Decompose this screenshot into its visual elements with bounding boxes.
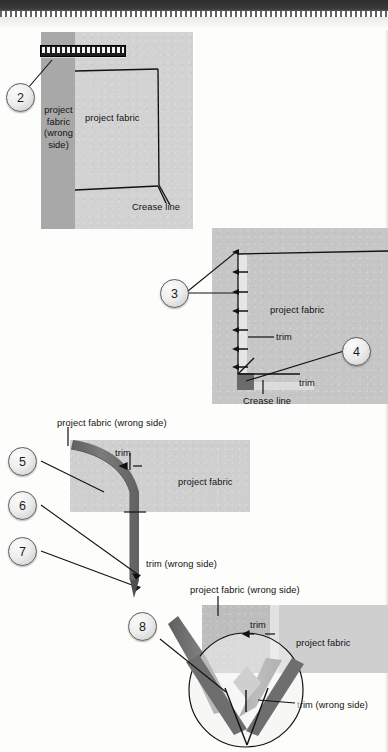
callout-6-leader (41, 505, 140, 576)
panel-8-stitch-lines (225, 688, 268, 745)
panel-3-trim-strip (238, 254, 247, 374)
panel-2-crease-label: Crease line (132, 202, 180, 214)
line-4: side) (48, 140, 69, 150)
panel-5-fabric-label: project fabric (178, 477, 233, 489)
panel-8-trim-strip (270, 605, 279, 673)
panel-3-folded-corner (237, 373, 254, 390)
line-3: (wrong (44, 128, 73, 138)
callout-3[interactable]: 3 (160, 279, 189, 308)
panel-5-artwork (70, 440, 250, 512)
callout-5[interactable]: 5 (8, 447, 37, 476)
fabric-texture (70, 440, 250, 512)
callout-2[interactable]: 2 (6, 83, 35, 112)
panel-3-fabric-label: project fabric (270, 305, 325, 317)
line-2: fabric (47, 117, 70, 127)
panel-8-wrong-side-label: project fabric (wrong side) (190, 585, 300, 597)
panel-7-trim-point (130, 580, 139, 598)
callout-7[interactable]: 7 (8, 537, 37, 566)
panel-8-artwork (202, 605, 388, 673)
line-1: project (44, 105, 73, 115)
figure-page: project fabric (wrong side) project fabr… (0, 0, 388, 752)
scan-dark-band (0, 0, 388, 11)
panel-3-trim-label-2: trim (299, 378, 315, 390)
callout-8[interactable]: 8 (128, 612, 157, 641)
panel-3-trim-label: trim (276, 332, 292, 344)
panel-8-fabric-label: project fabric (296, 638, 351, 650)
panel-5-trim-wrong-label: trim (wrong side) (146, 559, 217, 571)
panel-5-trim-label: trim (115, 448, 131, 460)
panel-8-trim-label: trim (250, 620, 266, 632)
callout-6[interactable]: 6 (8, 491, 37, 520)
scan-fade (0, 17, 388, 29)
panel-2-fabric-label: project fabric (85, 113, 140, 125)
panel-3-crease-label: Crease line (243, 396, 291, 408)
callout-67-arrowheads (132, 573, 141, 592)
ruler-icon (40, 45, 126, 57)
callout-4[interactable]: 4 (342, 337, 371, 366)
panel-8-trim-wrong-leader (258, 700, 295, 703)
panel-8-trim-wrong-label: trim (wrong side) (297, 700, 368, 712)
panel-2-wrong-side-label: project fabric (wrong side) (42, 105, 75, 151)
ruler-ticks (42, 47, 124, 55)
panel-5-wrong-side-label: project fabric (wrong side) (57, 418, 167, 430)
callout-7-leader (41, 551, 140, 588)
